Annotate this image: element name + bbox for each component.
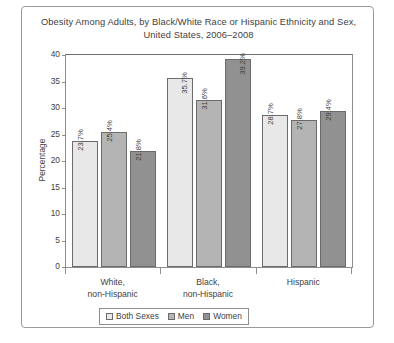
bar[interactable]: 35.7%: [167, 78, 193, 267]
bar-group: 35.7%31.6%39.2%: [161, 55, 256, 267]
x-axis-label: White,non-Hispanic: [65, 277, 160, 300]
bar[interactable]: 28.7%: [262, 115, 288, 267]
y-tick-label: 15: [51, 182, 60, 192]
legend-item[interactable]: Men: [168, 311, 194, 321]
bar[interactable]: 25.4%: [101, 132, 127, 267]
y-tick-label: 10: [51, 208, 60, 218]
legend-item[interactable]: Women: [203, 311, 242, 321]
y-tick-label: 35: [51, 76, 60, 86]
bar-value-label: 35.7%: [180, 72, 189, 94]
x-axis-label: Black,non-Hispanic: [160, 277, 255, 300]
chart-title-line-1: Obesity Among Adults, by Black/White Rac…: [41, 17, 356, 27]
bars-layer: 23.7%25.4%21.8%35.7%31.6%39.2%28.7%27.8%…: [66, 55, 352, 267]
bar[interactable]: 39.2%: [225, 59, 251, 267]
y-tick-label: 30: [51, 102, 60, 112]
group-separator-tick: [160, 268, 161, 274]
y-axis-title: Percentage: [37, 110, 47, 210]
legend: Both SexesMenWomen: [99, 308, 249, 325]
bar-value-label: 21.8%: [134, 140, 143, 162]
bar-group: 28.7%27.8%29.4%: [257, 55, 352, 267]
legend-swatch: [106, 313, 113, 320]
figure-frame: Obesity Among Adults, by Black/White Rac…: [21, 6, 374, 328]
bar[interactable]: 21.8%: [130, 151, 156, 267]
legend-label: Men: [178, 311, 194, 321]
x-axis-label-line-1: White,: [100, 277, 124, 287]
y-tick-label: 5: [55, 235, 60, 245]
legend-label: Women: [213, 311, 242, 321]
legend-item[interactable]: Both Sexes: [106, 311, 159, 321]
plot-area: 4035302520151050 23.7%25.4%21.8%35.7%31.…: [65, 54, 353, 268]
bar[interactable]: 27.8%: [291, 120, 317, 267]
bar-value-label: 31.6%: [200, 88, 209, 110]
legend-swatch: [168, 313, 175, 320]
bar-value-label: 29.4%: [324, 99, 333, 121]
y-tick-label: 0: [55, 261, 60, 271]
bar-value-label: 27.8%: [295, 108, 304, 130]
bar-value-label: 39.2%: [238, 53, 247, 75]
x-axis-label-line-2: non-Hispanic: [65, 289, 160, 301]
bar[interactable]: 23.7%: [72, 141, 98, 267]
x-axis-label-line-1: Hispanic: [287, 277, 320, 287]
legend-swatch: [203, 313, 210, 320]
x-axis-label-line-2: non-Hispanic: [160, 289, 255, 301]
y-tick-label: 40: [51, 49, 60, 59]
group-separator-tick: [65, 268, 66, 274]
bar-value-label: 25.4%: [105, 121, 114, 143]
x-axis-label-line-1: Black,: [196, 277, 219, 287]
legend-label: Both Sexes: [116, 311, 159, 321]
bar-value-label: 28.7%: [266, 103, 275, 125]
y-tick-label: 20: [51, 155, 60, 165]
bar[interactable]: 29.4%: [320, 111, 346, 267]
group-separator-tick: [351, 268, 352, 274]
chart-title: Obesity Among Adults, by Black/White Rac…: [22, 16, 375, 42]
bar-group: 23.7%25.4%21.8%: [66, 55, 161, 267]
group-separator-tick: [256, 268, 257, 274]
chart-title-line-2: United States, 2006–2008: [22, 29, 375, 42]
bar-value-label: 23.7%: [76, 130, 85, 152]
bar[interactable]: 31.6%: [196, 100, 222, 267]
y-tick-label: 25: [51, 129, 60, 139]
x-axis-label: Hispanic: [256, 277, 351, 289]
